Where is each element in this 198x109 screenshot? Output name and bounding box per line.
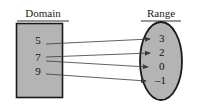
diagram-canvas: Domain Range 5 7 9 3 2 0 –1 <box>0 0 198 109</box>
domain-value-7: 7 <box>35 51 41 63</box>
range-value-2: 2 <box>159 46 165 58</box>
range-value-neg1: –1 <box>154 74 166 86</box>
domain-label: Domain <box>25 7 61 19</box>
mapping-diagram: Domain Range 5 7 9 3 2 0 –1 <box>0 0 198 109</box>
domain-value-9: 9 <box>35 65 41 77</box>
range-label: Range <box>147 7 175 19</box>
range-value-0: 0 <box>159 60 165 72</box>
domain-value-5: 5 <box>35 34 41 46</box>
range-value-3: 3 <box>159 32 165 44</box>
